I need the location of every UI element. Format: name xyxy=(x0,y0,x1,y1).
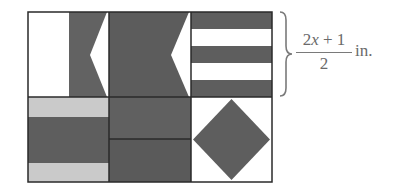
cell-5-split-dark-flag xyxy=(109,97,191,182)
cell-2-notched-dark-flag xyxy=(109,12,191,97)
dimension-unit: in. xyxy=(355,41,372,61)
cell-3-striped-flag xyxy=(191,12,272,97)
curly-brace xyxy=(280,12,292,96)
cell-4-banded-flag xyxy=(28,97,109,182)
fraction-denominator: 2 xyxy=(296,53,352,75)
cell-6-diamond-flag xyxy=(191,97,272,182)
dimension-fraction: 2x + 1 2 xyxy=(296,30,352,75)
fraction-numerator: 2x + 1 xyxy=(296,30,352,53)
cell-1-notched-half-flag xyxy=(28,12,109,97)
